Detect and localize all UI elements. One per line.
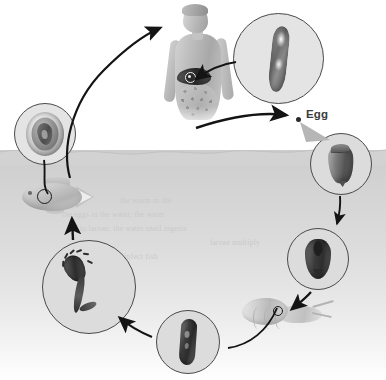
snail-whorl-1 [253,307,263,329]
ghost-text-3: larvae multiply [210,238,260,247]
miracidium-illustration [157,311,219,373]
fish-eye [28,191,32,195]
adult-fluke-inset [233,13,324,104]
egg-point-marker [296,117,301,122]
snail-host [240,292,336,336]
cercaria-spine-3 [76,249,82,253]
egg-inset [310,133,372,195]
cercaria-spine-4 [83,253,89,255]
fish-infection-marker [37,189,52,204]
egg-operculum [330,144,349,154]
cercaria-spine-2 [69,249,75,254]
egg-shell [328,144,355,183]
life-cycle-figure: the worm in the the eggs in the water, t… [0,0,386,380]
ghost-text-0: the worm in the [120,196,172,205]
redia-body [305,239,331,279]
human-hair [182,4,208,16]
egg-illustration [311,134,371,194]
metacercaria-illustration [15,104,75,164]
fish-host [14,176,106,220]
adult-fluke-illustration [234,14,323,103]
fish-body [22,183,82,211]
cercaria-inset [42,240,136,334]
human-liver [177,68,211,85]
redia-inset [287,228,349,290]
human-host [157,6,241,132]
liver-infection-marker [185,72,196,83]
cercaria-illustration [43,241,135,333]
miracidium-body [178,318,197,365]
snail-infection-marker [273,306,283,316]
miracidium-inset [156,310,220,374]
metacercaria-inset [14,103,76,165]
human-fade-mask [163,106,235,134]
egg-label: Egg [306,108,328,120]
egg-abopercular-knob [338,181,346,187]
snail-tentacle-upper [312,300,334,308]
redia-illustration [288,229,348,289]
cercaria-spine-6 [87,260,93,264]
ghost-text-2: to larvae; the water snail ingests [80,224,187,233]
adult-fluke-body [267,25,291,92]
